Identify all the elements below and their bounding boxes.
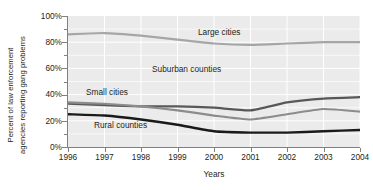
series-label-large-cities: Large cities bbox=[198, 28, 240, 37]
x-axis-line bbox=[67, 147, 360, 148]
series-label-small-cities: Small cities bbox=[86, 88, 128, 97]
y-axis-tick-labels: 0%20%40%60%80%100% bbox=[28, 0, 62, 190]
x-axis-title: Years bbox=[68, 169, 360, 179]
x-tick-label: 2002 bbox=[278, 153, 296, 162]
series-label-suburban-counties: Suburban counties bbox=[152, 65, 221, 74]
x-tick-label: 2000 bbox=[205, 153, 223, 162]
x-tick-label: 2004 bbox=[351, 153, 369, 162]
y-tick-label: 0% bbox=[28, 143, 62, 151]
x-tick-label: 1997 bbox=[95, 153, 113, 162]
gang-problems-line-chart: Percent of law enforcement agencies repo… bbox=[0, 0, 373, 190]
x-tick-label: 1998 bbox=[132, 153, 150, 162]
x-tick-label: 2003 bbox=[314, 153, 332, 162]
x-tick-label: 2001 bbox=[241, 153, 259, 162]
y-tick-label: 40% bbox=[28, 90, 62, 98]
y-tick-label: 80% bbox=[28, 38, 62, 46]
y-tick-label: 100% bbox=[28, 12, 62, 20]
y-tick-label: 60% bbox=[28, 64, 62, 72]
x-tick-label: 1996 bbox=[59, 153, 77, 162]
y-tick-label: 20% bbox=[28, 117, 62, 125]
x-tick-label: 1999 bbox=[168, 153, 186, 162]
y-axis-title-line1: Percent of law enforcement bbox=[7, 47, 15, 142]
series-label-rural-counties: Rural counties bbox=[94, 121, 147, 130]
y-axis-title-line2: agencies reporting gang problems bbox=[19, 36, 27, 154]
